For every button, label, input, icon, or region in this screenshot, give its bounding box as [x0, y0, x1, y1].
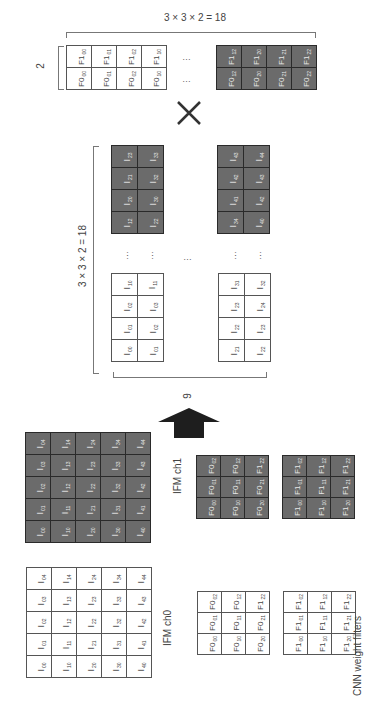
- weight-cell: F021: [266, 67, 292, 90]
- ifm-cell: I03: [26, 589, 52, 612]
- ifm-ch0-label: IFM ch0: [150, 622, 186, 633]
- im2col-height-label: 3 × 3 × 2 = 18: [52, 250, 114, 261]
- im2col-cell: I00: [111, 339, 138, 362]
- ifm-cell: I04: [26, 567, 52, 590]
- weight-matrix-ellipsis-bottom: …: [182, 74, 191, 84]
- im2col-ellipsis-4: …: [229, 250, 238, 260]
- filter-cell: F100: [283, 633, 308, 655]
- im2col-cell: I43: [243, 167, 270, 190]
- weight-matrix-width-brace: [66, 32, 316, 38]
- weight-cell: F001: [91, 67, 117, 90]
- im2col-cell: I23: [244, 317, 271, 340]
- im2col-cell: I11: [137, 273, 164, 296]
- ifm-cell: I13: [50, 454, 76, 477]
- ifm-cell: I12: [51, 611, 77, 634]
- ifm-cell: I11: [51, 633, 77, 656]
- weight-cell: F010: [141, 67, 167, 90]
- im2col-cell: I23: [218, 295, 245, 318]
- ifm-cell: I13: [51, 589, 77, 612]
- filter-cell: F000: [197, 633, 222, 655]
- filter-cell: F122: [244, 455, 269, 477]
- im2col-cell: I12: [111, 211, 138, 234]
- ifm-cell: I24: [76, 567, 102, 590]
- ifm-cell: I40: [126, 655, 152, 678]
- im2col-cell: I42: [217, 167, 244, 190]
- filter-cell: F012: [220, 455, 245, 477]
- filter-cell: F010: [221, 633, 246, 655]
- im2col-cell: I22: [137, 211, 164, 234]
- filter-cell: F121: [330, 476, 355, 498]
- ifm-cell: I42: [126, 611, 152, 634]
- ifm-cell: I14: [51, 567, 77, 590]
- filter-cell: F012: [221, 591, 246, 613]
- filter-cell: F101: [282, 476, 307, 498]
- filter-cell: F112: [306, 455, 331, 477]
- filter-cell: F020: [245, 633, 270, 655]
- ifm-cell: I43: [125, 454, 151, 477]
- weight-matrix-width-label: 3 × 3 × 2 = 18: [155, 12, 235, 23]
- weight-cell: F000: [66, 67, 92, 90]
- ifm-cell: I33: [101, 589, 127, 612]
- im2col-cell: I01: [137, 339, 164, 362]
- ifm-cell: I12: [50, 476, 76, 499]
- ifm-cell: I41: [126, 633, 152, 656]
- im2col-cell: I31: [218, 273, 245, 296]
- im2col-cell: I10: [111, 273, 138, 296]
- im2col-width-brace: [113, 372, 267, 378]
- ifm-cell: I10: [50, 520, 76, 543]
- weight-cell: F012: [216, 67, 242, 90]
- filter-cell: F010: [220, 497, 245, 519]
- weight-cell: F102: [116, 45, 142, 68]
- filter-cell: F102: [282, 455, 307, 477]
- weight-cell: F100: [66, 45, 92, 68]
- weight-cell: F101: [91, 45, 117, 68]
- filter-cell: F102: [283, 591, 308, 613]
- im2col-ellipsis-2: …: [146, 250, 155, 260]
- filter-cell: F011: [221, 612, 246, 634]
- im2col-cell: I30: [137, 189, 164, 212]
- ifm-cell: I32: [100, 476, 126, 499]
- im2col-cell: I43: [217, 145, 244, 168]
- ifm-cell: I21: [76, 633, 102, 656]
- ifm-cell: I43: [126, 589, 152, 612]
- ifm-cell: I44: [126, 567, 152, 590]
- filter-cell: F110: [306, 497, 331, 519]
- ifm-cell: I10: [51, 655, 77, 678]
- weight-cell: F122: [291, 45, 317, 68]
- weight-cell: F022: [291, 67, 317, 90]
- up-arrow-icon: [158, 408, 220, 438]
- ifm-cell: I01: [26, 633, 52, 656]
- im2col-cell: I42: [243, 189, 270, 212]
- ifm-cell: I22: [76, 611, 102, 634]
- ifm-cell: I40: [125, 520, 151, 543]
- filter-cell: F111: [307, 612, 332, 634]
- weight-cell: F020: [241, 67, 267, 90]
- filter-cell: F021: [245, 612, 270, 634]
- ifm-cell: I30: [100, 520, 126, 543]
- filter-cell: F001: [197, 612, 222, 634]
- ifm-cell: I34: [101, 567, 127, 590]
- ifm-cell: I21: [75, 498, 101, 521]
- ifm-cell: I11: [50, 498, 76, 521]
- im2col-ellipsis-1: …: [121, 250, 130, 260]
- ifm-cell: I23: [75, 454, 101, 477]
- ifm-cell: I31: [101, 633, 127, 656]
- im2col-cell: I03: [137, 295, 164, 318]
- ifm-cell: I14: [50, 432, 76, 455]
- im2col-cell: I34: [217, 211, 244, 234]
- ifm-cell: I31: [100, 498, 126, 521]
- im2col-cell: I22: [218, 317, 245, 340]
- im2col-ellipsis-5: …: [254, 250, 263, 260]
- im2col-cell: I32: [137, 167, 164, 190]
- im2col-width-label: 9: [185, 390, 191, 401]
- im2col-cell: I44: [243, 145, 270, 168]
- weight-cell: F121: [266, 45, 292, 68]
- weight-cell: F110: [141, 45, 167, 68]
- im2col-cell: I23: [111, 145, 138, 168]
- filter-cell: F111: [306, 476, 331, 498]
- im2col-ellipsis-3: …: [183, 252, 192, 262]
- weight-matrix-height-brace: [58, 46, 64, 90]
- filter-cell: F122: [245, 591, 270, 613]
- ifm-cell: I44: [125, 432, 151, 455]
- ifm-cell: I03: [25, 454, 51, 477]
